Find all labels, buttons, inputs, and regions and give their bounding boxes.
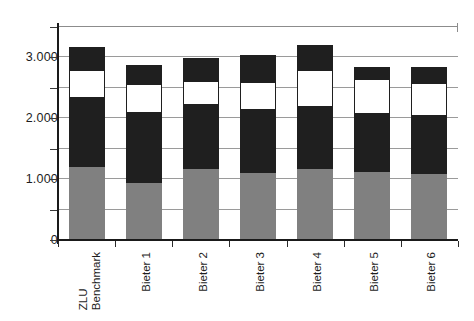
plot-area xyxy=(58,27,458,240)
x-axis-line xyxy=(58,239,458,241)
bar-segment xyxy=(240,55,276,81)
x-axis-label-2: Bieter 1 xyxy=(140,252,153,292)
x-axis-label-line: Bieter 2 xyxy=(197,252,210,292)
plot-right-edge xyxy=(457,23,458,32)
gridline-3500 xyxy=(58,26,458,27)
x-axis-label-1: ZLUBenchmark xyxy=(77,252,103,310)
x-axis-label-line: Bieter 3 xyxy=(254,252,267,292)
x-axis-label-line: ZLU xyxy=(77,252,90,310)
x-axis-label-line: Bieter 6 xyxy=(425,252,438,292)
y-tick-mark xyxy=(50,210,57,211)
bar-segment xyxy=(69,47,105,68)
x-axis-label-line: Bieter 1 xyxy=(140,252,153,292)
bar-segment xyxy=(240,173,276,240)
bar-segment xyxy=(69,70,105,99)
x-tick-mark xyxy=(229,241,230,247)
bar-segment xyxy=(126,183,162,240)
bar-1[interactable] xyxy=(69,47,105,240)
y-tick-mark xyxy=(50,27,57,28)
y-tick-mark xyxy=(50,88,57,89)
x-axis-label-line: Benchmark xyxy=(89,252,102,310)
bar-segment xyxy=(411,174,447,240)
x-tick-mark xyxy=(115,241,116,247)
x-tick-mark xyxy=(344,241,345,247)
bar-segment xyxy=(354,172,390,240)
x-tick-mark xyxy=(401,241,402,247)
bar-segment xyxy=(240,80,276,82)
bar-segment xyxy=(183,169,219,240)
bar-segment xyxy=(183,79,219,81)
bar-5[interactable] xyxy=(297,45,333,240)
y-tick-mark xyxy=(50,118,57,119)
x-tick-mark xyxy=(58,241,59,247)
bar-segment xyxy=(297,70,333,108)
x-tick-mark xyxy=(458,241,459,247)
x-axis-label-line: Bieter 5 xyxy=(368,252,381,292)
bar-segment xyxy=(297,107,333,169)
bar-segment xyxy=(354,67,390,79)
y-tick-mark xyxy=(50,57,57,58)
x-axis-label-5: Bieter 4 xyxy=(311,252,324,292)
bar-segment xyxy=(240,82,276,109)
y-tick-mark xyxy=(50,240,57,241)
bar-segment xyxy=(240,110,276,173)
y-tick-mark xyxy=(50,149,57,150)
bar-segment xyxy=(69,167,105,240)
bar-segment xyxy=(69,98,105,167)
bar-segment xyxy=(354,114,390,172)
bar-segment xyxy=(354,79,390,114)
bar-segment xyxy=(183,105,219,170)
bar-segment xyxy=(69,68,105,70)
x-axis-label-7: Bieter 6 xyxy=(425,252,438,292)
x-axis-label-3: Bieter 2 xyxy=(197,252,210,292)
bar-segment xyxy=(411,67,447,80)
x-axis-label-line: Bieter 4 xyxy=(311,252,324,292)
bar-segment xyxy=(183,81,219,105)
x-tick-mark xyxy=(172,241,173,247)
bar-segment xyxy=(297,45,333,70)
bar-segment xyxy=(297,169,333,240)
bar-segment xyxy=(411,81,447,83)
y-tick-mark xyxy=(50,179,57,180)
x-axis-label-6: Bieter 5 xyxy=(368,252,381,292)
y-axis-line xyxy=(57,23,59,244)
bar-4[interactable] xyxy=(240,55,276,240)
bar-segment xyxy=(126,113,162,183)
x-axis-label-4: Bieter 3 xyxy=(254,252,267,292)
bar-2[interactable] xyxy=(126,65,162,240)
bar-3[interactable] xyxy=(183,58,219,240)
bar-6[interactable] xyxy=(354,67,390,240)
bar-segment xyxy=(126,65,162,84)
bar-7[interactable] xyxy=(411,67,447,240)
y-axis-labels: 01.0002.0003.000 xyxy=(0,0,58,321)
bar-segment xyxy=(126,84,162,113)
bar-segment xyxy=(411,116,447,173)
bar-segment xyxy=(411,83,447,116)
x-tick-mark xyxy=(287,241,288,247)
chart-screenshot: 01.0002.0003.000 ZLUBenchmarkBieter 1Bie… xyxy=(0,0,474,321)
bar-segment xyxy=(183,58,219,79)
